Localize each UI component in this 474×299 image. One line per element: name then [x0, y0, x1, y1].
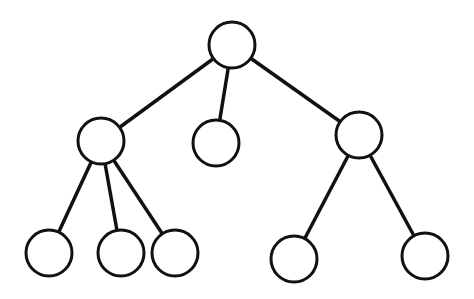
node-c	[336, 112, 382, 158]
node-b	[193, 120, 239, 166]
node-a3	[152, 230, 198, 276]
tree-nodes	[26, 22, 448, 282]
node-a1	[26, 230, 72, 276]
node-c1	[271, 236, 317, 282]
node-c2	[402, 233, 448, 279]
node-root	[209, 22, 255, 68]
tree-diagram	[0, 0, 474, 299]
node-a	[78, 118, 124, 164]
node-a2	[98, 230, 144, 276]
